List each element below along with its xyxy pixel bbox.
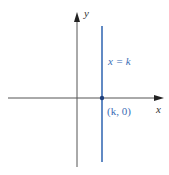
line-equation-label: x = k bbox=[108, 56, 131, 67]
y-axis-arrow-icon bbox=[74, 12, 80, 22]
point-k-0 bbox=[100, 96, 104, 100]
coordinate-plane bbox=[0, 0, 169, 175]
x-axis-arrow-icon bbox=[154, 95, 164, 101]
y-axis-label: y bbox=[84, 8, 89, 19]
point-label-text: (k, 0) bbox=[107, 105, 131, 117]
x-axis-label: x bbox=[156, 104, 161, 115]
point-label: (k, 0) bbox=[107, 106, 131, 117]
